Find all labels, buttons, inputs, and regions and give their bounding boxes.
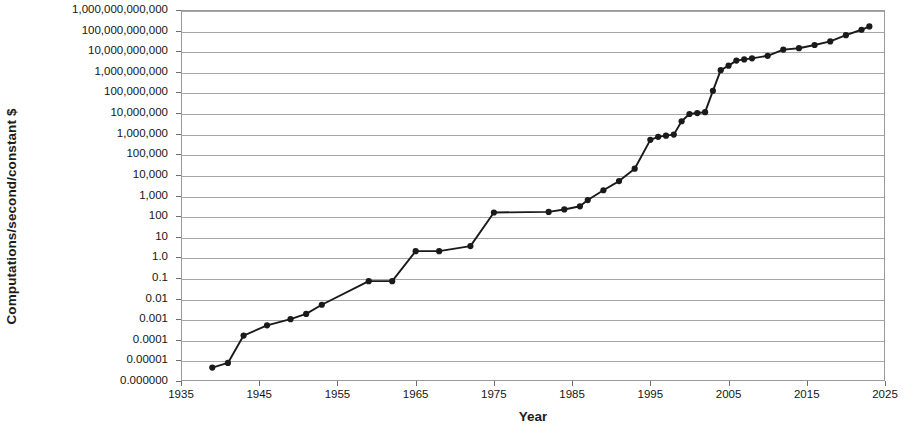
data-point xyxy=(812,42,818,48)
x-axis-tick-mark xyxy=(885,381,886,386)
x-axis-tick-label: 1935 xyxy=(151,388,211,400)
series-polyline xyxy=(212,26,869,367)
y-axis-tick-label: 10 xyxy=(0,231,176,242)
data-point xyxy=(366,278,372,284)
data-point xyxy=(287,316,293,322)
x-axis-tick-mark xyxy=(259,381,260,386)
x-axis-title: Year xyxy=(181,409,885,424)
data-point xyxy=(616,178,622,184)
y-axis-tick-mark xyxy=(176,340,181,341)
data-point xyxy=(319,302,325,308)
x-axis-tick-mark xyxy=(650,381,651,386)
y-axis-tick-mark xyxy=(176,113,181,114)
data-point xyxy=(725,63,731,69)
data-point xyxy=(413,248,419,254)
y-axis-tick-label: 10,000,000,000 xyxy=(0,45,176,56)
data-point xyxy=(577,203,583,209)
data-point xyxy=(209,364,215,370)
data-point xyxy=(240,332,246,338)
data-point xyxy=(546,209,552,215)
data-point xyxy=(436,248,442,254)
y-axis-tick-label: 10,000 xyxy=(0,169,176,180)
y-axis-tick-label: 1,000,000,000 xyxy=(0,66,176,77)
y-axis-tick-mark xyxy=(176,360,181,361)
x-axis-tick-label: 1965 xyxy=(386,388,446,400)
y-axis-tick-label: 0.01 xyxy=(0,293,176,304)
data-point xyxy=(647,137,653,143)
data-point xyxy=(741,56,747,62)
x-axis-tick-mark xyxy=(181,381,182,386)
data-point xyxy=(389,278,395,284)
y-axis-tick-label: 1,000,000 xyxy=(0,128,176,139)
y-axis-tick-mark xyxy=(176,154,181,155)
y-axis-tick-label: 0.000000 xyxy=(0,375,176,386)
data-point xyxy=(264,322,270,328)
y-axis-tick-mark xyxy=(176,237,181,238)
data-point xyxy=(655,134,661,140)
y-axis-tick-mark xyxy=(176,196,181,197)
y-axis-tick-label: 10,000,000 xyxy=(0,107,176,118)
y-axis-tick-label: 100 xyxy=(0,210,176,221)
data-point xyxy=(600,187,606,193)
data-point xyxy=(765,53,771,59)
x-axis-tick-label: 1975 xyxy=(464,388,524,400)
y-axis-tick-labels: 1,000,000,000,000100,000,000,00010,000,0… xyxy=(0,0,176,433)
data-point xyxy=(749,55,755,61)
x-axis-tick-label: 1945 xyxy=(229,388,289,400)
y-axis-tick-label: 1.0 xyxy=(0,251,176,262)
x-axis-tick-mark xyxy=(572,381,573,386)
x-axis-tick-label: 2005 xyxy=(699,388,759,400)
y-axis-tick-label: 0.1 xyxy=(0,272,176,283)
chart-root: Moore's Law: The Fifth Paradigm Computat… xyxy=(0,0,914,433)
y-axis-tick-mark xyxy=(176,257,181,258)
data-point xyxy=(718,67,724,73)
data-point xyxy=(671,132,677,138)
y-axis-tick-label: 0.001 xyxy=(0,313,176,324)
data-point xyxy=(702,109,708,115)
data-point xyxy=(843,32,849,38)
x-axis-tick-mark xyxy=(807,381,808,386)
data-series-line xyxy=(181,10,885,381)
y-axis-tick-mark xyxy=(176,278,181,279)
y-axis-tick-label: 100,000,000,000 xyxy=(0,25,176,36)
y-axis-tick-mark xyxy=(176,72,181,73)
data-point xyxy=(663,133,669,139)
y-axis-tick-label: 1,000 xyxy=(0,190,176,201)
x-axis-tick-mark xyxy=(337,381,338,386)
data-point xyxy=(858,27,864,33)
x-axis-tick-label: 2015 xyxy=(777,388,837,400)
y-axis-tick-label: 0.00001 xyxy=(0,354,176,365)
data-point xyxy=(491,209,497,215)
y-axis-tick-label: 100,000,000 xyxy=(0,86,176,97)
data-point xyxy=(679,118,685,124)
y-axis-tick-mark xyxy=(176,216,181,217)
data-point xyxy=(733,58,739,64)
y-axis-tick-mark xyxy=(176,92,181,93)
x-axis-tick-label: 1985 xyxy=(542,388,602,400)
y-axis-tick-mark xyxy=(176,31,181,32)
data-point xyxy=(827,38,833,44)
data-point xyxy=(585,197,591,203)
x-axis-tick-label: 1955 xyxy=(307,388,367,400)
y-axis-tick-mark xyxy=(176,51,181,52)
y-axis-tick-label: 1,000,000,000,000 xyxy=(0,4,176,15)
data-point xyxy=(225,360,231,366)
x-axis-tick-label: 2025 xyxy=(855,388,914,400)
data-point xyxy=(710,88,716,94)
y-axis-tick-mark xyxy=(176,299,181,300)
x-axis-tick-label: 1995 xyxy=(620,388,680,400)
y-axis-tick-label: 0.0001 xyxy=(0,334,176,345)
data-point xyxy=(866,23,872,29)
y-axis-tick-mark xyxy=(176,319,181,320)
data-point xyxy=(686,111,692,117)
y-axis-tick-label: 100,000 xyxy=(0,148,176,159)
data-point xyxy=(694,110,700,116)
x-axis-tick-mark xyxy=(729,381,730,386)
data-point xyxy=(780,46,786,52)
x-axis-tick-mark xyxy=(416,381,417,386)
y-axis-tick-mark xyxy=(176,175,181,176)
x-axis-tick-mark xyxy=(494,381,495,386)
data-point xyxy=(561,206,567,212)
data-point xyxy=(303,311,309,317)
data-point xyxy=(467,243,473,249)
